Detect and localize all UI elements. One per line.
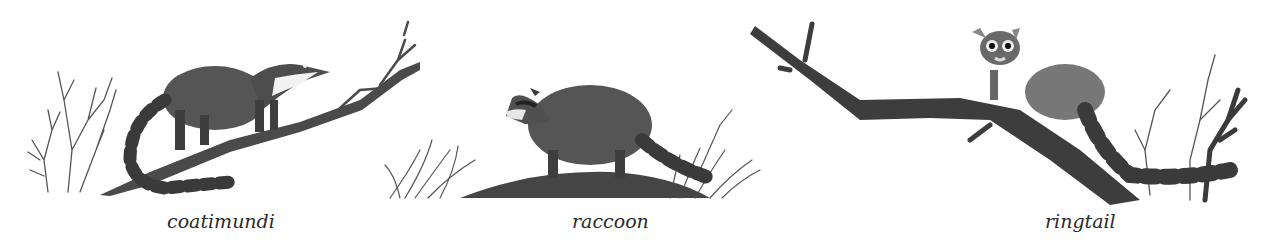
caption-coatimundi: coatimundi xyxy=(167,210,275,232)
raccoon-illustration xyxy=(380,0,780,242)
panel-coatimundi: coatimundi xyxy=(0,0,420,242)
ringtail-illustration xyxy=(750,0,1265,242)
panel-ringtail: ringtail xyxy=(750,0,1265,242)
coatimundi-illustration xyxy=(0,0,420,242)
caption-ringtail: ringtail xyxy=(1045,210,1116,232)
caption-raccoon: raccoon xyxy=(572,210,649,232)
panel-raccoon: raccoon xyxy=(380,0,780,242)
